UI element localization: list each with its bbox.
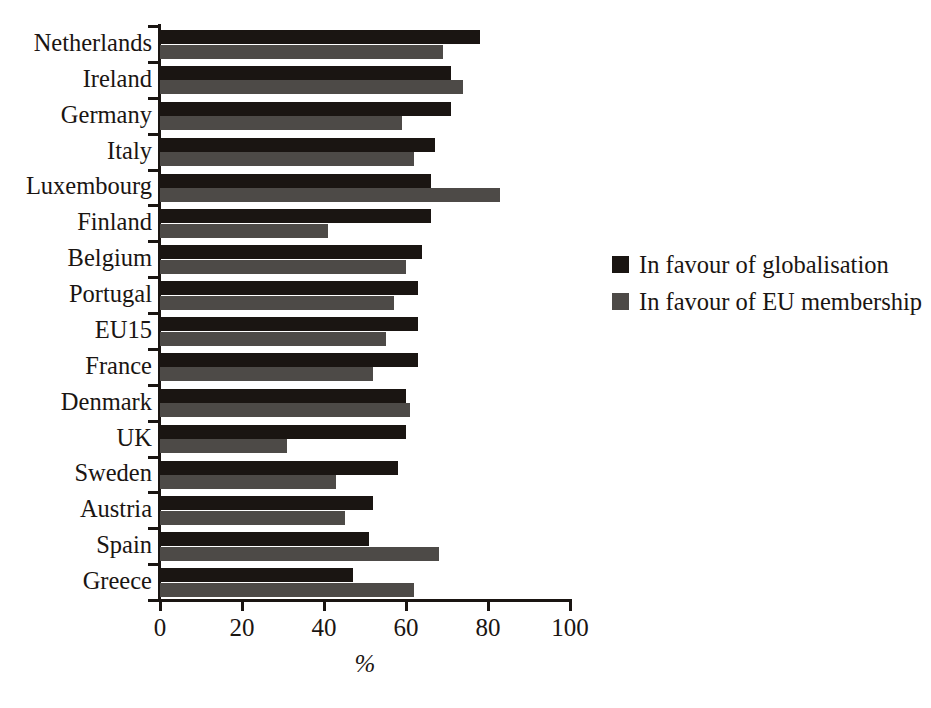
bar-belgium-series-2	[160, 260, 406, 274]
bar-uk-series-2	[160, 439, 287, 453]
bar-austria-series-2	[160, 511, 345, 525]
y-axis-category-labels: NetherlandsIrelandGermanyItalyLuxembourg…	[0, 0, 152, 708]
bar-denmark-series-1	[160, 389, 406, 403]
bar-greece-series-2	[160, 583, 414, 597]
y-axis-tick	[148, 456, 159, 459]
y-axis-tick	[148, 527, 159, 530]
y-axis-tick	[148, 312, 159, 315]
x-axis-tick-label: 100	[530, 613, 610, 643]
bar-sweden-series-2	[160, 475, 336, 489]
x-axis-tick-label: 0	[120, 613, 200, 643]
bar-group-italy	[160, 134, 570, 170]
y-axis-tick	[148, 420, 159, 423]
y-axis-label-eu15: EU15	[2, 315, 152, 345]
x-axis-tick-label: 40	[284, 613, 364, 643]
y-axis-tick	[148, 240, 159, 243]
bar-luxembourg-series-1	[160, 174, 431, 188]
y-axis-tick	[148, 563, 159, 566]
x-axis-tick	[159, 601, 162, 611]
y-axis-label-germany: Germany	[2, 100, 152, 130]
y-axis-label-spain: Spain	[2, 530, 152, 560]
y-axis-label-netherlands: Netherlands	[2, 28, 152, 58]
y-axis-tick	[148, 61, 159, 64]
x-axis-tick	[405, 601, 408, 611]
bar-group-sweden	[160, 457, 570, 493]
y-axis-label-belgium: Belgium	[2, 243, 152, 273]
legend-swatch-icon	[612, 293, 629, 310]
bar-ireland-series-1	[160, 66, 451, 80]
bar-eu15-series-1	[160, 317, 418, 331]
bar-group-spain	[160, 528, 570, 564]
bar-uk-series-1	[160, 425, 406, 439]
bar-portugal-series-2	[160, 296, 394, 310]
bar-group-austria	[160, 492, 570, 528]
x-axis-tick-label: 20	[202, 613, 282, 643]
bar-group-greece	[160, 564, 570, 600]
bar-group-belgium	[160, 241, 570, 277]
plot-area	[160, 26, 570, 600]
bar-spain-series-2	[160, 547, 439, 561]
bar-luxembourg-series-2	[160, 188, 500, 202]
bar-france-series-2	[160, 367, 373, 381]
y-axis-tick	[148, 348, 159, 351]
bar-germany-series-1	[160, 102, 451, 116]
legend-label: In favour of globalisation	[639, 251, 889, 279]
y-axis-label-denmark: Denmark	[2, 387, 152, 417]
y-axis-tick	[148, 491, 159, 494]
bar-finland-series-1	[160, 209, 431, 223]
legend-item-2: In favour of EU membership	[612, 283, 922, 320]
bar-germany-series-2	[160, 116, 402, 130]
y-axis-tick	[148, 25, 159, 28]
bar-group-finland	[160, 205, 570, 241]
legend-swatch-icon	[612, 256, 629, 273]
y-axis-label-greece: Greece	[2, 566, 152, 596]
y-axis-tick	[148, 97, 159, 100]
y-axis-label-france: France	[2, 351, 152, 381]
legend-item-1: In favour of globalisation	[612, 246, 922, 283]
x-axis-title: %	[160, 650, 570, 678]
bar-ireland-series-2	[160, 80, 463, 94]
y-axis-label-luxembourg: Luxembourg	[2, 171, 152, 201]
x-axis-tick	[569, 601, 572, 611]
bar-denmark-series-2	[160, 403, 410, 417]
y-axis-label-uk: UK	[2, 423, 152, 453]
y-axis-tick	[148, 133, 159, 136]
bar-group-portugal	[160, 277, 570, 313]
bar-spain-series-1	[160, 532, 369, 546]
bar-sweden-series-1	[160, 461, 398, 475]
y-axis-tick	[148, 384, 159, 387]
bar-eu15-series-2	[160, 332, 386, 346]
x-axis-tick	[487, 601, 490, 611]
bar-group-france	[160, 349, 570, 385]
bar-group-eu15	[160, 313, 570, 349]
bar-greece-series-1	[160, 568, 353, 582]
y-axis-tick	[148, 169, 159, 172]
bar-belgium-series-1	[160, 245, 422, 259]
legend-label: In favour of EU membership	[639, 288, 922, 316]
y-axis-label-ireland: Ireland	[2, 64, 152, 94]
y-axis-tick	[148, 599, 159, 602]
bar-group-netherlands	[160, 26, 570, 62]
x-axis-tick-label: 80	[448, 613, 528, 643]
bar-finland-series-2	[160, 224, 328, 238]
bar-netherlands-series-2	[160, 45, 443, 59]
y-axis-label-austria: Austria	[2, 494, 152, 524]
y-axis-label-finland: Finland	[2, 207, 152, 237]
chart-legend: In favour of globalisationIn favour of E…	[612, 246, 922, 320]
x-axis-tick-label: 60	[366, 613, 446, 643]
bar-chart-figure: NetherlandsIrelandGermanyItalyLuxembourg…	[0, 0, 931, 708]
bar-group-uk	[160, 421, 570, 457]
y-axis-tick	[148, 276, 159, 279]
x-axis-tick	[241, 601, 244, 611]
bar-italy-series-2	[160, 152, 414, 166]
bar-group-germany	[160, 98, 570, 134]
bar-italy-series-1	[160, 138, 435, 152]
bar-group-luxembourg	[160, 170, 570, 206]
y-axis-label-italy: Italy	[2, 136, 152, 166]
y-axis-label-sweden: Sweden	[2, 458, 152, 488]
bar-group-denmark	[160, 385, 570, 421]
y-axis-label-portugal: Portugal	[2, 279, 152, 309]
bar-netherlands-series-1	[160, 30, 480, 44]
bar-group-ireland	[160, 62, 570, 98]
bar-france-series-1	[160, 353, 418, 367]
